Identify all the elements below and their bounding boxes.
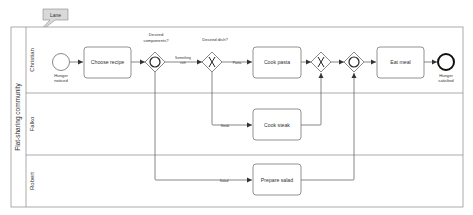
task-label: Cook pasta [264, 59, 290, 65]
task-label: Cook steak [264, 122, 290, 128]
flow-label-pasta: Pasta [233, 61, 242, 65]
end-event[interactable]: Hunger satisfied [438, 54, 454, 83]
flow-label-rich: rich [180, 61, 185, 65]
gateway-label: Desired dish? [202, 37, 228, 42]
gateway-label-2: components? [143, 38, 169, 43]
lane-label-robert: Robert [29, 172, 35, 190]
task-choose-recipe[interactable]: Choose recipe [84, 47, 131, 78]
task-label: Eat meal [390, 59, 410, 65]
lane-label-christian: Christian [29, 48, 35, 72]
end-event-label-2: satisfied [438, 78, 454, 83]
pool-label: Flat-sharing community [14, 82, 22, 150]
flow-label-steak: Steak [221, 124, 230, 128]
bpmn-diagram: Lane Flat-sharing community Christian Fa… [0, 0, 473, 215]
task-prepare-salad[interactable]: Prepare salad [253, 164, 301, 195]
task-label: Choose recipe [91, 59, 125, 65]
task-cook-steak[interactable]: Cook steak [253, 109, 301, 140]
start-event[interactable]: Hunger noticed [53, 54, 70, 84]
flow-label-something: Something [175, 56, 191, 60]
lane-robert: Robert [29, 172, 35, 190]
task-eat-meal[interactable]: Eat meal [377, 47, 424, 78]
lane-label-falko: Falko [29, 116, 35, 131]
flow-label-salad: Salad [220, 179, 229, 183]
task-cook-pasta[interactable]: Cook pasta [253, 47, 301, 78]
gateway-label-1: Desired [149, 32, 164, 37]
task-label: Prepare salad [261, 177, 293, 183]
start-event-label-2: noticed [54, 78, 68, 83]
callout-label: Lane [50, 12, 61, 18]
